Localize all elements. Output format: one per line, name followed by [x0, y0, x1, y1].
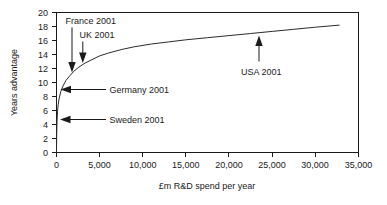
annotation-germany: Germany 2001: [61, 85, 170, 95]
x-tick-label: 35,000: [345, 160, 373, 170]
x-axis-tick-labels: 0 5,000 10,000 15,000 20,000 25,000 30,0…: [54, 160, 372, 170]
y-axis-ticks: [52, 13, 57, 153]
annotation-france: France 2001: [66, 16, 117, 73]
y-tick-label: 10: [38, 78, 48, 88]
annotation-uk: UK 2001: [79, 30, 114, 63]
x-tick-label: 15,000: [172, 160, 200, 170]
x-axis-title-text: £m R&D spend per year: [159, 181, 256, 191]
y-tick-label: 0: [43, 148, 48, 158]
x-tick-label: 10,000: [129, 160, 157, 170]
y-tick-label: 18: [38, 22, 48, 32]
y-tick-label: 12: [38, 64, 48, 74]
y-axis-title: Years advantage: [9, 49, 19, 116]
annotation-label-uk: UK 2001: [80, 30, 115, 40]
annotation-sweden: Sweden 2001: [60, 115, 165, 125]
y-tick-label: 8: [43, 92, 48, 102]
annotation-label-sweden: Sweden 2001: [110, 115, 165, 125]
x-tick-label: 20,000: [215, 160, 243, 170]
annotation-usa: USA 2001: [241, 36, 282, 78]
annotation-label-france: France 2001: [66, 16, 117, 26]
x-axis-ticks: [57, 153, 359, 158]
chart-figure: 0 2 4 6 8 10 12 14 16 18 20 Years advant…: [0, 0, 387, 205]
y-axis-tick-labels: 0 2 4 6 8 10 12 14 16 18 20: [38, 8, 48, 158]
annotation-label-germany: Germany 2001: [110, 85, 170, 95]
y-tick-label: 6: [43, 106, 48, 116]
y-tick-label: 14: [38, 50, 48, 60]
y-axis-title-text: Years advantage: [9, 49, 19, 116]
y-tick-label: 16: [38, 36, 48, 46]
y-tick-label: 2: [43, 134, 48, 144]
data-curve-line: [57, 25, 340, 152]
rd-spend-years-advantage-chart: 0 2 4 6 8 10 12 14 16 18 20 Years advant…: [0, 0, 387, 205]
x-tick-label: 0: [54, 160, 59, 170]
x-tick-label: 25,000: [258, 160, 286, 170]
x-axis-title: £m R&D spend per year: [159, 181, 256, 191]
y-tick-label: 4: [43, 120, 48, 130]
x-tick-label: 5,000: [88, 160, 111, 170]
annotation-label-usa: USA 2001: [241, 67, 282, 77]
y-tick-label: 20: [38, 8, 48, 18]
x-tick-label: 30,000: [301, 160, 329, 170]
